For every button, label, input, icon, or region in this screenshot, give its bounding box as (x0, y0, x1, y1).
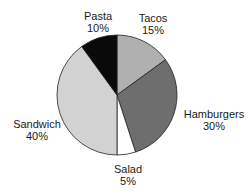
label-salad-name: Salad (108, 163, 148, 175)
label-hamburgers-value: 30% (180, 120, 248, 132)
label-pasta-value: 10% (78, 22, 118, 34)
label-tacos: Tacos 15% (133, 12, 173, 36)
label-sandwich-value: 40% (10, 130, 64, 142)
label-hamburgers-name: Hamburgers (180, 108, 248, 120)
pie-chart: Pasta 10% Tacos 15% Hamburgers 30% Sandw… (0, 0, 250, 194)
label-pasta-name: Pasta (78, 10, 118, 22)
label-sandwich-name: Sandwich (10, 118, 64, 130)
label-hamburgers: Hamburgers 30% (180, 108, 248, 132)
label-tacos-value: 15% (133, 24, 173, 36)
label-pasta: Pasta 10% (78, 10, 118, 34)
label-salad-value: 5% (108, 175, 148, 187)
label-tacos-name: Tacos (133, 12, 173, 24)
label-salad: Salad 5% (108, 163, 148, 187)
label-sandwich: Sandwich 40% (10, 118, 64, 142)
